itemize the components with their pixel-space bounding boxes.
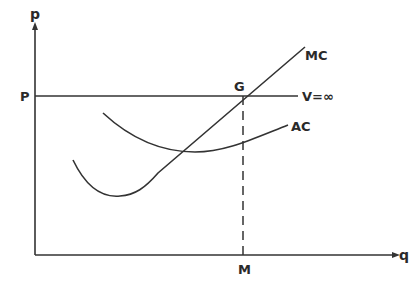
ac-label: AC xyxy=(291,119,311,134)
ac-curve xyxy=(103,113,288,152)
quantity-label: M xyxy=(238,262,251,277)
demand-label: V=∞ xyxy=(302,89,334,104)
mc-curve xyxy=(73,47,305,196)
x-axis-label: q xyxy=(399,247,409,263)
price-label: P xyxy=(20,89,30,104)
y-axis-label: p xyxy=(30,6,40,22)
mc-label: MC xyxy=(305,48,327,63)
equilibrium-label: G xyxy=(234,79,245,94)
cost-curve-diagram: p q P G M MC AC V=∞ xyxy=(0,0,409,284)
